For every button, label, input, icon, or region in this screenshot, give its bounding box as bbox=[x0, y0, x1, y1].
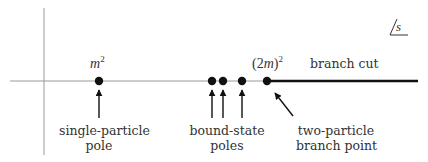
single-particle-pole-line1: single-particle bbox=[59, 123, 139, 138]
bound-state-poles-line1: bound-state bbox=[187, 123, 267, 138]
bound-state-poles-line2: poles bbox=[187, 138, 267, 153]
bound-state-pole-dot-3 bbox=[238, 77, 246, 85]
two-particle-branch-point-line2: branch point bbox=[296, 138, 376, 153]
bound-state-pole-dot-1 bbox=[208, 77, 216, 85]
single-particle-pole-label: single-particle pole bbox=[59, 123, 139, 153]
m-squared-base: m bbox=[90, 56, 100, 71]
s-plane-label: s bbox=[396, 19, 401, 34]
two-particle-branch-point-line1: two-particle bbox=[296, 123, 376, 138]
two-m-open: (2 bbox=[252, 56, 264, 71]
two-m-squared-label: (2m)2 bbox=[252, 52, 283, 71]
m-squared-label: m2 bbox=[90, 52, 105, 71]
two-particle-branch-point-label: two-particle branch point bbox=[296, 123, 376, 153]
branch-cut-label: branch cut bbox=[310, 56, 379, 71]
arrow-diagonal-icon bbox=[275, 93, 293, 116]
bound-state-poles-label: bound-state poles bbox=[187, 123, 267, 153]
single-particle-pole-dot bbox=[95, 77, 103, 85]
bound-state-pole-dot-2 bbox=[219, 77, 227, 85]
two-m-exp: 2 bbox=[278, 54, 283, 64]
single-particle-pole-line2: pole bbox=[59, 138, 139, 153]
branch-point-dot bbox=[263, 77, 271, 85]
m-squared-exp: 2 bbox=[100, 54, 105, 64]
two-m-var: m bbox=[264, 56, 274, 71]
